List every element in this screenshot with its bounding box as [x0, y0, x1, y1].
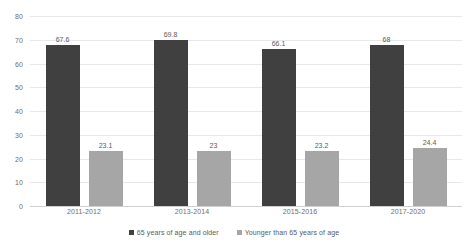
bar-value-label: 24.4: [423, 138, 437, 147]
y-tick-label-80: 80: [15, 13, 23, 20]
bar-wrapper: 69.8: [154, 16, 188, 206]
y-tick-label-40: 40: [15, 108, 23, 115]
y-tick-label-10: 10: [15, 179, 23, 186]
bar-value-label: 68: [383, 35, 391, 44]
gridline-0: [30, 206, 462, 207]
bar-wrapper: 24.4: [413, 16, 447, 206]
bar-group: 66.123.2: [246, 16, 354, 206]
plot-area: 67.623.169.82366.123.26824.4: [30, 16, 462, 206]
bar[interactable]: [46, 45, 80, 206]
legend-label: 65 years of age and older: [137, 229, 219, 236]
bar[interactable]: [154, 40, 188, 206]
bar-value-label: 23: [210, 141, 218, 150]
bar-wrapper: 23.2: [305, 16, 339, 206]
bar[interactable]: [262, 49, 296, 206]
y-tick-label-50: 50: [15, 84, 23, 91]
bar-wrapper: 23.1: [89, 16, 123, 206]
bar-value-label: 69.8: [164, 30, 178, 39]
legend-item[interactable]: 65 years of age and older: [129, 229, 219, 236]
bar-group: 67.623.1: [30, 16, 138, 206]
bar[interactable]: [197, 151, 231, 206]
legend-label: Younger than 65 years of age: [245, 229, 339, 236]
bar-value-label: 23.2: [315, 141, 329, 150]
x-axis-label: 2011-2012: [30, 208, 138, 220]
bar-group: 69.823: [138, 16, 246, 206]
bar[interactable]: [89, 151, 123, 206]
bar-group: 6824.4: [354, 16, 462, 206]
bar-value-label: 23.1: [99, 141, 113, 150]
bar[interactable]: [305, 151, 339, 206]
x-axis: 2011-20122013-20142015-20162017-2020: [30, 208, 462, 220]
y-tick-label-70: 70: [15, 36, 23, 43]
y-tick-label-20: 20: [15, 155, 23, 162]
bar-wrapper: 67.6: [46, 16, 80, 206]
x-axis-label: 2013-2014: [138, 208, 246, 220]
bar-groups: 67.623.169.82366.123.26824.4: [30, 16, 462, 206]
bar-value-label: 66.1: [272, 39, 286, 48]
legend-swatch-icon: [129, 230, 134, 235]
bar[interactable]: [370, 45, 404, 207]
bar-wrapper: 66.1: [262, 16, 296, 206]
y-tick-label-30: 30: [15, 131, 23, 138]
bar-wrapper: 23: [197, 16, 231, 206]
y-tick-label-60: 60: [15, 60, 23, 67]
bar-chart: 01020304050607080 67.623.169.82366.123.2…: [0, 0, 468, 243]
y-axis: 01020304050607080: [0, 16, 28, 206]
bar-value-label: 67.6: [56, 35, 70, 44]
x-axis-label: 2017-2020: [354, 208, 462, 220]
x-axis-label: 2015-2016: [246, 208, 354, 220]
chart-legend: 65 years of age and olderYounger than 65…: [0, 226, 468, 238]
legend-item[interactable]: Younger than 65 years of age: [237, 229, 339, 236]
legend-swatch-icon: [237, 230, 242, 235]
y-tick-label-0: 0: [19, 203, 23, 210]
bar[interactable]: [413, 148, 447, 206]
bar-wrapper: 68: [370, 16, 404, 206]
